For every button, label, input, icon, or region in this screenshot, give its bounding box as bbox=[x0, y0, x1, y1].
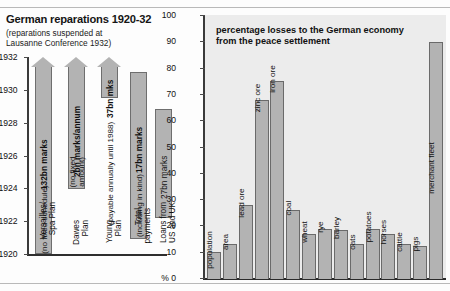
right-bar-area: area bbox=[223, 244, 237, 278]
left-ytick-label-1932: 1932 bbox=[0, 53, 18, 61]
left-category-dawes: DawesPlan bbox=[72, 220, 90, 260]
bottom-divider-rule bbox=[0, 283, 450, 284]
left-chart-title: German reparations 1920-32 bbox=[6, 13, 172, 25]
left-chart-subtitle-line1: (reparations suspended at bbox=[6, 28, 168, 38]
right-bar-label-population: population bbox=[205, 232, 214, 269]
right-bar-wheat: wheat bbox=[302, 234, 316, 279]
right-ytick-label-0: % 0 bbox=[161, 274, 176, 282]
left-ytick-label-1926: 1926 bbox=[0, 152, 18, 160]
right-bar-label-coal: coal bbox=[284, 201, 293, 216]
right-ytick-20 bbox=[200, 225, 205, 226]
right-ytick-60 bbox=[200, 120, 205, 121]
right-bar-label-barley: barley bbox=[332, 217, 341, 239]
right-bar-label-rye: rye bbox=[316, 221, 325, 232]
right-ytick-label-80: 80 bbox=[166, 64, 176, 72]
right-bar-label-pigs: pigs bbox=[411, 236, 420, 251]
left-plot-area: 1932 1930 1928 1926 1924 1922 1920 132 bbox=[27, 57, 167, 256]
left-ytick-1924: 1924 bbox=[24, 188, 28, 189]
right-bars-container: population area lead ore zinc ore iron o… bbox=[206, 15, 446, 279]
right-ytick-label-20: 20 bbox=[166, 221, 176, 229]
left-chart-subtitle: (reparations suspended at Lausanne Confe… bbox=[6, 28, 168, 48]
right-ytick-label-40: 40 bbox=[166, 169, 176, 177]
left-ytick-label-1930: 1930 bbox=[0, 86, 18, 94]
right-ytick-90 bbox=[200, 41, 205, 42]
right-ytick-label-30: 30 bbox=[166, 195, 176, 203]
left-ytick-1932: 1932 bbox=[24, 57, 28, 58]
right-ytick-0 bbox=[200, 278, 205, 279]
right-bar-oats: oats bbox=[350, 244, 364, 278]
right-ytick-70 bbox=[200, 94, 205, 95]
right-ytick-label-70: 70 bbox=[166, 90, 176, 98]
left-chart-subtitle-line2: Lausanne Conference 1932) bbox=[6, 38, 168, 48]
left-ytick-label-1922: 1922 bbox=[0, 217, 18, 225]
left-ytick-label-1920: 1920 bbox=[0, 250, 18, 258]
left-ytick-1930: 1930 bbox=[24, 90, 28, 91]
right-ytick-label-60: 60 bbox=[166, 116, 176, 124]
right-ytick-label-zero: 0 bbox=[171, 273, 176, 283]
right-bar-label-merchant-fleet: merchant fleet bbox=[427, 142, 436, 193]
right-ytick-label-50: 50 bbox=[166, 143, 176, 151]
right-ytick-label-90: 90 bbox=[166, 37, 176, 45]
right-bar-coal: coal bbox=[286, 210, 300, 278]
left-ytick-1920: 1920 bbox=[24, 254, 28, 255]
top-divider-rule bbox=[0, 7, 450, 8]
right-ytick-30 bbox=[200, 199, 205, 200]
right-bar-iron-ore: iron ore bbox=[270, 81, 284, 278]
left-bar-arrowhead-dawes bbox=[64, 57, 88, 67]
right-ytick-80 bbox=[200, 68, 205, 69]
left-category-versailles: Versailles/Spa Plan bbox=[39, 202, 57, 260]
right-bar-merchant-fleet: merchant fleet bbox=[429, 42, 443, 279]
left-category-young: YoungPlan bbox=[105, 220, 123, 260]
right-bar-lead-ore: lead ore bbox=[239, 205, 253, 279]
figure-root: German reparations 1920-32 (reparations … bbox=[0, 0, 450, 291]
right-bar-cattle: cattle bbox=[397, 244, 411, 278]
left-bar-arrowhead-young bbox=[97, 57, 121, 67]
right-ytick-label-10: 10 bbox=[166, 248, 176, 256]
right-bar-label-cattle: cattle bbox=[395, 233, 404, 252]
left-bar-dawes-plan: 2bn marks/annum (no fixedamount) bbox=[68, 66, 85, 189]
right-chart-panel: 100 90 80 70 60 50 40 30 bbox=[176, 9, 450, 281]
left-y-axis-line bbox=[27, 57, 29, 256]
right-bar-label-horses: horses bbox=[379, 220, 388, 244]
right-bar-rye: rye bbox=[318, 229, 332, 279]
right-bar-zinc-ore: zinc ore bbox=[255, 100, 269, 279]
right-ytick-50 bbox=[200, 147, 205, 148]
left-chart-panel: German reparations 1920-32 (reparations … bbox=[0, 9, 172, 281]
right-bar-barley: barley bbox=[334, 230, 348, 279]
right-bar-label-zinc-ore: zinc ore bbox=[253, 84, 262, 112]
right-bar-population: population bbox=[207, 252, 221, 278]
left-ytick-1922: 1922 bbox=[24, 221, 28, 222]
right-ytick-10 bbox=[200, 252, 205, 253]
left-bar-note-dawes: (no fixedamount) bbox=[68, 142, 86, 202]
right-ytick-40 bbox=[200, 173, 205, 174]
left-category-total-payments: Totalpayments bbox=[134, 208, 152, 260]
left-ytick-1928: 1928 bbox=[24, 123, 28, 124]
right-ytick-label-100: 100 bbox=[162, 11, 176, 19]
right-bar-label-wheat: wheat bbox=[300, 221, 309, 243]
right-ytick-100 bbox=[200, 15, 205, 16]
right-bar-label-oats: oats bbox=[348, 235, 357, 250]
right-bar-label-lead-ore: lead ore bbox=[237, 188, 246, 217]
right-bar-label-iron-ore: iron ore bbox=[268, 66, 277, 93]
right-bar-potatoes: potatoes bbox=[366, 229, 380, 279]
left-ytick-label-1924: 1924 bbox=[0, 184, 18, 192]
right-bar-label-potatoes: potatoes bbox=[364, 211, 373, 242]
right-bar-horses: horses bbox=[381, 234, 395, 279]
right-bar-pigs: pigs bbox=[413, 246, 427, 279]
right-bar-label-area: area bbox=[221, 234, 230, 250]
right-x-axis-line bbox=[203, 278, 446, 280]
left-ytick-1926: 1926 bbox=[24, 156, 28, 157]
left-ytick-label-1928: 1928 bbox=[0, 119, 18, 127]
right-axis-unit: % bbox=[161, 273, 169, 283]
left-bar-arrowhead-versailles bbox=[31, 57, 55, 67]
